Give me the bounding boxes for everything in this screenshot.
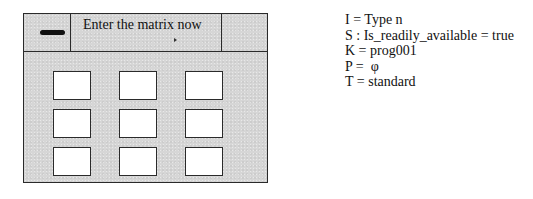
- property-s: S : Is_readily_available = true: [345, 28, 514, 44]
- property-list: I = Type n S : Is_readily_available = tr…: [345, 12, 514, 90]
- matrix-cell-3-2[interactable]: [119, 147, 157, 176]
- matrix-cell-3-1[interactable]: [53, 147, 91, 176]
- property-p: P = φ: [345, 59, 514, 75]
- matrix-cell-1-3[interactable]: [185, 71, 223, 100]
- cursor-icon: [174, 38, 177, 42]
- matrix-grid: [53, 71, 223, 176]
- property-i: I = Type n: [345, 12, 514, 28]
- title-area: Enter the matrix now: [71, 14, 222, 51]
- window-title: Enter the matrix now: [83, 17, 202, 33]
- minimize-button[interactable]: [24, 14, 71, 51]
- property-k: K = prog001: [345, 43, 514, 59]
- matrix-cell-1-1[interactable]: [53, 71, 91, 100]
- header-right-button[interactable]: [221, 14, 267, 51]
- window-header: Enter the matrix now: [24, 14, 267, 52]
- matrix-cell-3-3[interactable]: [185, 147, 223, 176]
- matrix-cell-2-2[interactable]: [119, 109, 157, 138]
- matrix-cell-1-2[interactable]: [119, 71, 157, 100]
- matrix-entry-window: Enter the matrix now: [23, 13, 268, 183]
- matrix-cell-2-3[interactable]: [185, 109, 223, 138]
- property-t: T = standard: [345, 74, 514, 90]
- minus-icon: [40, 30, 65, 35]
- matrix-cell-2-1[interactable]: [53, 109, 91, 138]
